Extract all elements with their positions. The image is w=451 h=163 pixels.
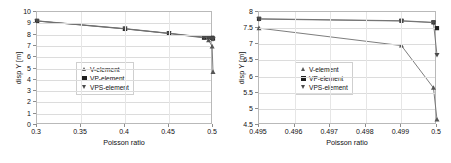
- x-tick-label: 0.5: [431, 128, 441, 135]
- grid-line: [37, 35, 211, 36]
- series-line: [259, 19, 437, 55]
- y-tick-mark: [255, 27, 258, 28]
- grid-line: [37, 69, 211, 70]
- x-tick-label: 0.499: [392, 128, 410, 135]
- grid-line: [330, 12, 331, 123]
- grid-line: [259, 77, 435, 78]
- grid-line: [81, 12, 82, 123]
- x-tick-mark: [124, 124, 125, 127]
- legend-label: VP-element: [89, 74, 124, 83]
- y-tick-mark: [255, 76, 258, 77]
- x-tick-mark: [365, 124, 366, 127]
- x-tick-label: 0.498: [356, 128, 374, 135]
- legend-label: V-element: [89, 65, 120, 74]
- grid-line: [401, 12, 402, 123]
- grid-line: [37, 102, 211, 103]
- two-panel-figure: disp Y [m] V-element VP-element VPS-elem…: [0, 0, 451, 163]
- grid-line: [259, 28, 435, 29]
- y-tick-mark: [33, 45, 36, 46]
- grid-line: [37, 46, 211, 47]
- x-tick-mark: [212, 124, 213, 127]
- grid-line: [259, 60, 435, 61]
- grid-line: [169, 12, 170, 123]
- x-tick-mark: [258, 124, 259, 127]
- grid-line: [37, 57, 211, 58]
- grid-line: [37, 23, 211, 24]
- y-tick-mark: [33, 22, 36, 23]
- y-tick-label: 7: [225, 40, 253, 47]
- legend-item-v-element: V-element: [80, 65, 129, 74]
- legend-item-vp-element: VP-element: [299, 74, 348, 83]
- y-tick-mark: [33, 101, 36, 102]
- grid-line: [259, 44, 435, 45]
- chart-panel-right: disp Y [m] V-element VP-element VPS-elem…: [225, 0, 451, 163]
- x-tick-mark: [168, 124, 169, 127]
- y-tick-mark: [33, 90, 36, 91]
- x-tick-label: 0.497: [320, 128, 338, 135]
- y-tick-mark: [255, 59, 258, 60]
- y-tick-mark: [33, 11, 36, 12]
- x-tick-label: 0.45: [161, 128, 175, 135]
- plot-area-right: V-element VP-element VPS-element: [258, 11, 436, 124]
- y-tick-label: 6: [0, 53, 31, 60]
- y-tick-label: 7.5: [225, 24, 253, 31]
- chart-panel-left: disp Y [m] V-element VP-element VPS-elem…: [0, 0, 225, 163]
- y-tick-mark: [255, 43, 258, 44]
- x-tick-label: 0.4: [119, 128, 129, 135]
- x-tick-mark: [436, 124, 437, 127]
- x-tick-label: 0.3: [31, 128, 41, 135]
- grid-line: [259, 109, 435, 110]
- y-tick-label: 8: [225, 8, 253, 15]
- y-tick-label: 7: [0, 41, 31, 48]
- plot-area-left: V-element VP-element VPS-element: [36, 11, 212, 124]
- legend-label: VPS-element: [308, 83, 348, 92]
- grid-line: [295, 12, 296, 123]
- y-tick-mark: [33, 113, 36, 114]
- y-tick-mark: [255, 92, 258, 93]
- y-tick-label: 1: [0, 109, 31, 116]
- legend-item-v-element: V-element: [299, 65, 348, 74]
- y-tick-mark: [33, 68, 36, 69]
- data-point-marker: [435, 26, 439, 30]
- triangle-down-icon: [299, 83, 308, 92]
- x-tick-mark: [294, 124, 295, 127]
- legend-label: V-element: [308, 65, 339, 74]
- x-axis-title-right: Poisson ratio: [258, 138, 436, 147]
- grid-line: [366, 12, 367, 123]
- y-tick-label: 2: [0, 98, 31, 105]
- y-tick-label: 4: [0, 75, 31, 82]
- triangle-up-icon: [299, 65, 308, 74]
- grid-line: [37, 91, 211, 92]
- x-tick-mark: [400, 124, 401, 127]
- x-tick-label: 0.5: [207, 128, 217, 135]
- y-tick-label: 10: [0, 8, 31, 15]
- y-tick-label: 6.5: [225, 56, 253, 63]
- y-tick-label: 8: [0, 30, 31, 37]
- y-tick-label: 3: [0, 87, 31, 94]
- legend-item-vp-element: VP-element: [80, 74, 129, 83]
- grid-line: [37, 114, 211, 115]
- y-tick-label: 5: [0, 64, 31, 71]
- grid-line: [37, 80, 211, 81]
- square-icon: [299, 74, 308, 83]
- y-tick-mark: [33, 79, 36, 80]
- y-tick-mark: [255, 108, 258, 109]
- grid-line: [259, 93, 435, 94]
- x-axis-title-left: Poisson ratio: [36, 138, 212, 147]
- x-tick-label: 0.496: [285, 128, 303, 135]
- x-tick-mark: [80, 124, 81, 127]
- y-tick-label: 9: [0, 19, 31, 26]
- grid-line: [125, 12, 126, 123]
- y-tick-mark: [33, 34, 36, 35]
- data-point-marker: [211, 69, 216, 74]
- y-tick-mark: [255, 11, 258, 12]
- y-tick-label: 0: [0, 121, 31, 128]
- data-point-marker: [435, 53, 440, 58]
- x-tick-mark: [329, 124, 330, 127]
- y-tick-label: 6: [225, 72, 253, 79]
- x-tick-label: 0.35: [73, 128, 87, 135]
- y-tick-label: 4.5: [225, 121, 253, 128]
- y-tick-mark: [33, 56, 36, 57]
- legend-item-vps-element: VPS-element: [299, 83, 348, 92]
- x-tick-label: 0.495: [249, 128, 267, 135]
